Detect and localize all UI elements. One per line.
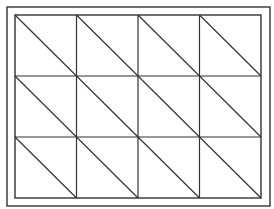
cell-diagonal [15, 15, 77, 76]
cell-diagonal [200, 15, 262, 76]
cell-diagonal [15, 137, 77, 198]
cell-diagonal [200, 137, 262, 198]
cell-diagonal [77, 137, 139, 198]
cell-diagonal [77, 76, 139, 137]
triangulated-grid-diagram [0, 0, 274, 209]
cell-diagonal [138, 15, 200, 76]
cell-diagonal [200, 76, 262, 137]
cell-diagonal [138, 137, 200, 198]
cell-diagonal [77, 15, 139, 76]
cell-diagonal [15, 76, 77, 137]
cell-diagonal [138, 76, 200, 137]
grid-lines [15, 15, 261, 198]
